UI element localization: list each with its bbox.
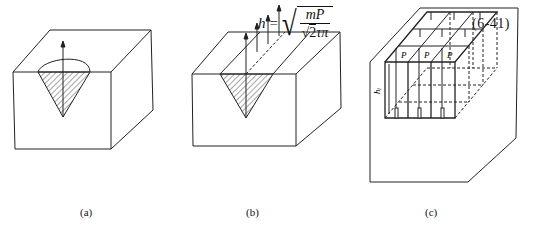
figure-b-drawing (190, 50, 350, 200)
load-label-2: P (423, 50, 430, 60)
load-label-3: P (446, 50, 453, 60)
equation: h = √ mP √2τπ (258, 6, 333, 41)
depth-label: hᵢ (372, 88, 382, 95)
radical-icon: √ (282, 7, 297, 41)
load-label-1: P (400, 50, 407, 60)
figure-a-drawing (10, 50, 170, 200)
figure-c-drawing: P P P hᵢ (368, 50, 533, 205)
numerator: mP (300, 7, 331, 24)
figure-c: P P P hᵢ (368, 50, 533, 209)
fraction: mP √2τπ (297, 6, 334, 41)
figure-b (190, 50, 350, 204)
caption-a: (a) (80, 206, 92, 218)
equals-sign: = (270, 15, 278, 32)
caption-b: (b) (246, 206, 259, 218)
figure-a (10, 50, 170, 204)
caption-c: (c) (425, 206, 437, 218)
